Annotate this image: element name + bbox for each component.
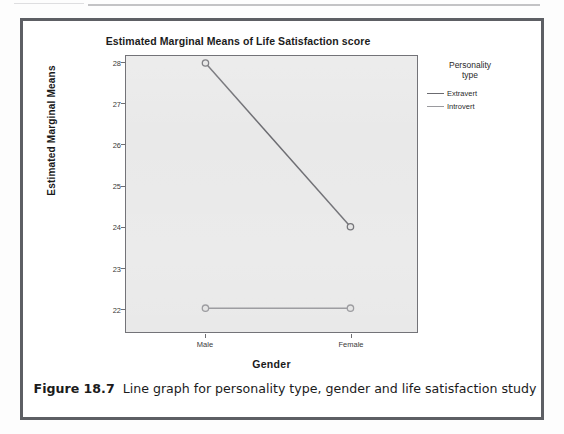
figure-caption-text: Line graph for personality type, gender …: [123, 381, 537, 396]
series-plot: [126, 56, 417, 332]
legend-swatch-extravert: [427, 93, 444, 94]
extravert-line-segment: [205, 63, 350, 227]
legend-item-introvert[interactable]: Introvert: [427, 102, 539, 112]
scan-artifact-line-left: [14, 3, 84, 4]
scan-artifact-rule-top: [88, 4, 540, 6]
x-tick-label-male: Male: [175, 340, 235, 349]
extravert-point-male: [202, 60, 208, 66]
legend-label-introvert: Introvert: [447, 102, 475, 111]
legend-label-extravert: Extravert: [447, 89, 477, 98]
chart-title: Estimated Marginal Means of Life Satisfa…: [23, 35, 453, 47]
legend-title: Personality type: [427, 61, 513, 81]
y-tick-label-26: 26: [95, 141, 121, 150]
legend-swatch-introvert: [427, 106, 444, 107]
x-tick-mark-male: [205, 334, 206, 338]
extravert-point-female: [347, 224, 353, 230]
x-tick-mark-female: [351, 334, 352, 338]
figure-caption-number: Figure 18.7: [34, 381, 115, 396]
y-tick-label-22: 22: [95, 306, 121, 315]
x-axis-title: Gender: [125, 358, 418, 370]
figure-frame: Estimated Marginal Means of Life Satisfa…: [20, 18, 544, 420]
y-tick-label-24: 24: [95, 223, 121, 232]
series-extravert: [202, 60, 353, 230]
chart-area: Estimated Marginal Means of Life Satisfa…: [23, 21, 547, 376]
x-tick-label-female: Female: [321, 340, 381, 349]
introvert-point-male: [202, 305, 208, 311]
legend-title-line-2: type: [427, 71, 513, 81]
legend-item-extravert[interactable]: Extravert: [427, 89, 539, 99]
y-tick-label-28: 28: [95, 59, 121, 68]
y-tick-label-23: 23: [95, 265, 121, 274]
y-tick-label-25: 25: [95, 182, 121, 191]
y-axis-title: Estimated Marginal Means: [46, 51, 57, 211]
figure-caption: Figure 18.7 Line graph for personality t…: [23, 381, 547, 396]
legend: Personality type Extravert Introvert: [427, 61, 539, 112]
plot-area: [125, 55, 418, 333]
introvert-point-female: [347, 305, 353, 311]
y-tick-label-27: 27: [95, 100, 121, 109]
series-introvert: [202, 305, 353, 311]
